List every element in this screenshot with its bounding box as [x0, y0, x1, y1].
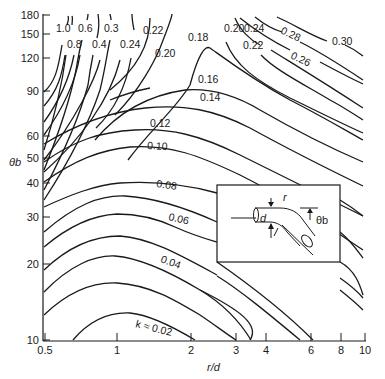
x-tick-label: 3 [233, 344, 239, 356]
x-tick-label: 1 [114, 344, 120, 356]
x-axis-title: r/d [207, 361, 221, 373]
contour-label: 0.08 [156, 177, 178, 192]
contour-line [255, 17, 363, 80]
contour-label: 0.20 [224, 22, 245, 34]
bend-inset: r d θb [217, 185, 340, 262]
y-tick-label: 10 [27, 334, 39, 346]
contour-label: 0.22 [143, 24, 164, 36]
x-tick-label: 6 [308, 344, 314, 356]
y-tick-label: 40 [27, 177, 39, 189]
contour-line [44, 214, 217, 247]
x-tick-label: 8 [338, 344, 344, 356]
contour-line [44, 196, 217, 232]
contour-label: 0.18 [188, 31, 209, 43]
contour-label: 0.12 [150, 117, 171, 129]
x-tick-label: 2 [188, 344, 194, 356]
y-tick-label: 60 [27, 130, 39, 142]
contour-line [261, 55, 363, 120]
contour-label: 0.24 [120, 38, 141, 50]
contour-label: 0.30 [332, 35, 353, 47]
contour-label: 0.3 [104, 22, 119, 34]
y-tick-label: 20 [27, 258, 39, 270]
contour-line [340, 200, 363, 216]
contour-label: 0.26 [289, 49, 313, 69]
inset-label-d: d [260, 212, 267, 224]
contour-label: 0.4 [92, 38, 107, 50]
contour-line [73, 313, 195, 340]
contour-line [97, 14, 99, 38]
x-tick-label: 0.5 [37, 344, 52, 356]
contour-line [340, 278, 363, 298]
contour-line [44, 60, 120, 172]
contour-line [340, 290, 363, 310]
y-ticks: 18015012090605040302010 [21, 9, 50, 346]
contour-line [44, 283, 236, 340]
contour-label: 0.14 [200, 91, 221, 103]
contour-label: 0.10 [147, 139, 168, 152]
y-tick-label: 30 [27, 211, 39, 223]
x-tick-label: 4 [263, 344, 269, 356]
contour-labels: k ≈ 0.020.040.060.080.100.120.140.160.18… [56, 22, 353, 338]
y-axis-title: θb [9, 156, 21, 168]
contour-label: 0.24 [244, 22, 265, 34]
contour-label: 0.20 [155, 47, 176, 59]
y-tick-label: 120 [21, 52, 39, 64]
contour-label: 0.6 [78, 22, 93, 34]
contour-label: 0.8 [67, 38, 82, 50]
contour-label: 0.22 [243, 39, 264, 51]
contour-line [44, 236, 217, 275]
y-tick-label: 50 [27, 152, 39, 164]
x-tick-label: 10 [359, 344, 371, 356]
contour-chart: k ≈ 0.020.040.060.080.100.120.140.160.18… [0, 0, 385, 379]
contour-label: 0.16 [198, 73, 219, 85]
y-tick-label: 150 [21, 28, 39, 40]
contour-label: 0.28 [279, 24, 303, 44]
y-tick-label: 180 [21, 9, 39, 21]
inset-label-theta: θb [316, 214, 328, 226]
y-tick-label: 90 [27, 85, 39, 97]
contour-lines [44, 14, 363, 340]
contour-line [340, 232, 363, 258]
contour-label: k ≈ 0.02 [135, 317, 174, 338]
contour-line [217, 262, 313, 340]
contour-label: 1.0 [56, 22, 71, 34]
contour-line [340, 262, 363, 295]
contour-line [217, 276, 300, 340]
contour-line [44, 182, 217, 207]
x-ticks: 0.512346810 [37, 333, 371, 356]
contour-label: 0.06 [168, 210, 191, 226]
